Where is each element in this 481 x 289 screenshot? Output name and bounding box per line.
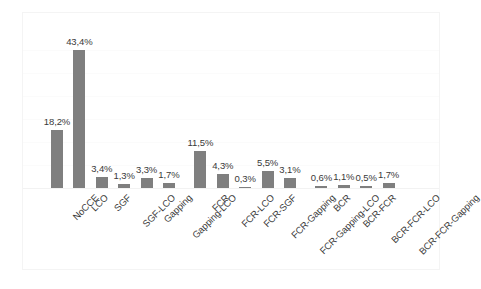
bar-value-label: 11,5% bbox=[170, 137, 230, 148]
category-label-bcr: BCR bbox=[331, 192, 353, 214]
bar-fcr-sgf bbox=[239, 187, 251, 189]
bar-nocce bbox=[51, 130, 63, 188]
bar-bcr-fcr bbox=[338, 185, 350, 188]
bar-bcr bbox=[315, 186, 327, 188]
bar-gapping-lco bbox=[163, 183, 175, 188]
bar-bcr-fcr-gapping bbox=[383, 183, 395, 188]
bar-value-label: 1,7% bbox=[139, 169, 199, 180]
bar-value-label: 1,7% bbox=[359, 169, 419, 180]
bar-value-label: 43,4% bbox=[49, 36, 109, 47]
category-label-sgf: SGF bbox=[111, 192, 132, 213]
bar-sgf-lco bbox=[118, 184, 130, 188]
bar-bcr-fcr-lco bbox=[360, 186, 372, 188]
